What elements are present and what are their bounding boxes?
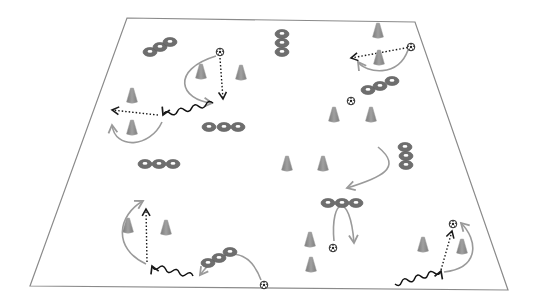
marker-disc (152, 160, 166, 169)
marker-disc (231, 123, 245, 132)
marker-disc (335, 199, 349, 208)
marker-disc (398, 143, 412, 152)
ball-icon (329, 244, 337, 252)
training-field-canvas (0, 0, 535, 308)
marker-group (275, 30, 289, 57)
ball-icon (216, 48, 224, 56)
ball-icon (407, 43, 415, 51)
field-boundary (30, 18, 508, 290)
marker-group (321, 199, 363, 208)
marker-disc (275, 39, 289, 48)
marker-group (202, 123, 245, 132)
marker-disc (385, 77, 399, 86)
ball-icon (449, 220, 457, 228)
marker-group (398, 143, 413, 170)
ball-icon (347, 97, 355, 105)
marker-disc (275, 48, 289, 57)
marker-disc (399, 161, 413, 170)
marker-group (138, 160, 180, 169)
drill-diagram (0, 0, 535, 308)
marker-disc (373, 82, 387, 91)
marker-disc (138, 160, 152, 169)
marker-disc (399, 152, 413, 161)
marker-disc (166, 160, 180, 169)
marker-disc (163, 38, 177, 47)
marker-disc (275, 30, 289, 39)
marker-disc (217, 123, 231, 132)
marker-disc (223, 248, 237, 257)
marker-disc (321, 199, 335, 208)
marker-disc (212, 254, 226, 263)
pitch-outline (30, 18, 508, 290)
marker-disc (202, 123, 216, 132)
marker-disc (349, 199, 363, 208)
ball-icon (260, 281, 268, 289)
